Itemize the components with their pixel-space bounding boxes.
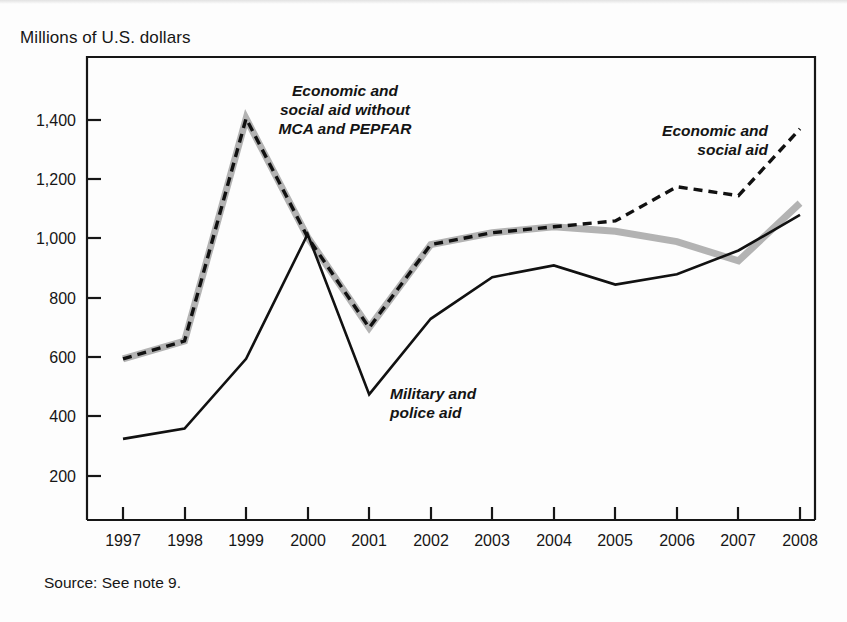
y-axis-labels: 1,400 1,200 1,000 800 600 400 200	[36, 112, 76, 485]
x-tick-label: 2000	[290, 532, 326, 549]
y-axis-ticks	[87, 120, 101, 476]
x-tick-label: 2002	[413, 532, 449, 549]
y-tick-label: 1,400	[36, 112, 76, 129]
y-tick-label: 200	[49, 468, 76, 485]
x-tick-label: 2004	[536, 532, 572, 549]
annotation-line: Economic and	[662, 122, 768, 139]
x-tick-label: 2006	[659, 532, 695, 549]
x-tick-label: 2007	[720, 532, 756, 549]
annotation-line: Economic and	[292, 82, 398, 99]
y-tick-label: 1,000	[36, 230, 76, 247]
y-tick-label: 800	[49, 290, 76, 307]
x-tick-label: 2008	[782, 532, 818, 549]
annotation-line: Military and	[390, 385, 477, 402]
chart-page: Millions of U.S. dollars 1,400 1,200 1,0…	[0, 0, 847, 622]
x-tick-label: 1997	[105, 532, 141, 549]
x-tick-label: 1999	[228, 532, 264, 549]
y-tick-label: 600	[49, 349, 76, 366]
annotation-economic-social-aid: Economic and social aid	[662, 122, 768, 158]
x-tick-label: 2005	[597, 532, 633, 549]
annotation-line: MCA and PEPFAR	[279, 120, 413, 137]
annotation-military-police-aid: Military and police aid	[389, 385, 477, 421]
x-axis-ticks	[123, 507, 800, 520]
annotation-without-mca: Economic and social aid without MCA and …	[279, 82, 413, 137]
x-axis-labels: 1997 1998 1999 2000 2001 2002 2003 2004 …	[105, 532, 818, 549]
y-tick-label: 1,200	[36, 171, 76, 188]
annotation-line: police aid	[389, 404, 462, 421]
x-tick-label: 2001	[351, 532, 387, 549]
source-note: Source: See note 9.	[44, 574, 181, 592]
x-tick-label: 1998	[167, 532, 203, 549]
annotation-line: social aid without	[280, 101, 411, 118]
y-tick-label: 400	[49, 408, 76, 425]
x-tick-label: 2003	[474, 532, 510, 549]
annotation-line: social aid	[697, 141, 768, 158]
line-chart: 1,400 1,200 1,000 800 600 400 200 1997	[0, 0, 847, 622]
